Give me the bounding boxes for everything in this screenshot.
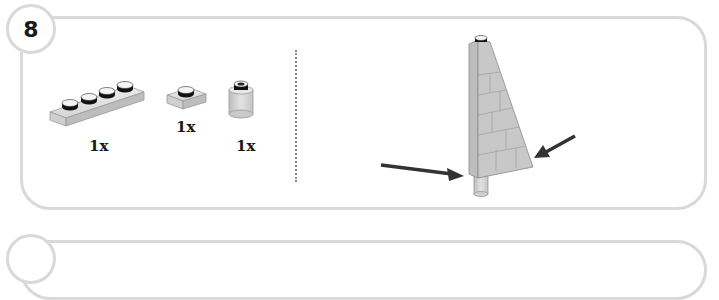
right-arrow-icon	[534, 136, 575, 158]
qty-round-brick: 1x	[236, 137, 255, 155]
qty-plate-1x4: 1x	[89, 137, 108, 155]
round-brick-1x1-icon	[229, 81, 253, 118]
plate-1x4-icon	[50, 82, 144, 127]
wedge-assembly-icon	[469, 36, 533, 197]
next-step-badge	[6, 234, 56, 284]
plate-1x1-icon	[167, 87, 206, 110]
next-step-panel	[20, 240, 707, 300]
left-arrow-icon	[381, 165, 464, 181]
dotted-divider	[295, 50, 297, 182]
qty-plate-1x1: 1x	[176, 118, 195, 136]
